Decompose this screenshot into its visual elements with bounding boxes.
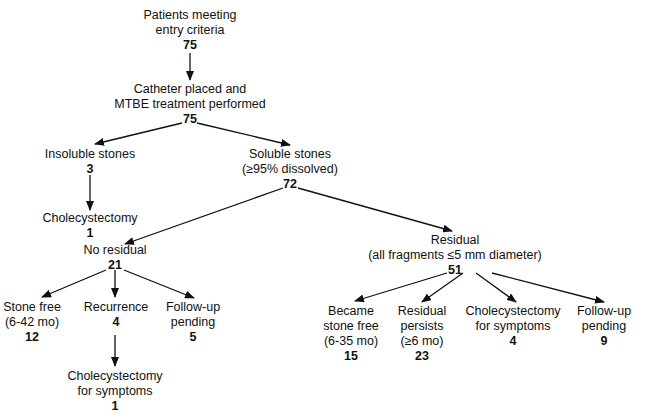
count: 23: [398, 349, 447, 364]
count: 4: [84, 315, 149, 330]
node-recurrence: Recurrence 4: [84, 300, 149, 330]
count: 1: [42, 226, 137, 241]
count: 9: [577, 334, 631, 349]
node-became-stone-free: Became stone free (6-35 mo) 15: [323, 304, 379, 364]
node-follow-up-pending-2: Follow-up pending 9: [577, 304, 631, 349]
count: 15: [323, 349, 379, 364]
count: 4: [465, 334, 560, 349]
node-soluble-stones: Soluble stones (≥95% dissolved) 72: [242, 147, 338, 192]
count: 75: [114, 112, 265, 127]
node-catheter-mtbe: Catheter placed and MTBE treatment perfo…: [114, 82, 265, 127]
count: 72: [242, 177, 338, 192]
node-cholecystectomy-symptoms-1: Cholecystectomy for symptoms 1: [67, 369, 162, 414]
node-insoluble-stones: Insoluble stones 3: [45, 147, 135, 177]
count: 21: [83, 258, 146, 273]
node-follow-up-pending-1: Follow-up pending 5: [166, 300, 220, 345]
count: 5: [166, 330, 220, 345]
count: 1: [67, 399, 162, 414]
node-no-residual: No residual 21: [83, 243, 146, 273]
node-patients-entry: Patients meeting entry criteria 75: [143, 8, 236, 53]
count: 3: [45, 162, 135, 177]
node-stone-free: Stone free (6-42 mo) 12: [3, 300, 61, 345]
node-residual-persists: Residual persists (≥6 mo) 23: [398, 304, 447, 364]
node-residual: Residual (all fragments ≤5 mm diameter) …: [368, 233, 542, 278]
count: 51: [368, 263, 542, 278]
node-cholecystectomy-symptoms-2: Cholecystectomy for symptoms 4: [465, 304, 560, 349]
count: 12: [3, 330, 61, 345]
node-cholecystectomy: Cholecystectomy 1: [42, 211, 137, 241]
count: 75: [143, 38, 236, 53]
